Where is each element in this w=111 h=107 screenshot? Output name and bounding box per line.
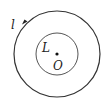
center-label: O bbox=[53, 59, 63, 73]
diagram-canvas: l L O bbox=[0, 0, 111, 107]
inner-circle-label: L bbox=[41, 41, 50, 55]
center-point bbox=[55, 52, 58, 55]
outer-circle-label: l bbox=[11, 18, 15, 32]
